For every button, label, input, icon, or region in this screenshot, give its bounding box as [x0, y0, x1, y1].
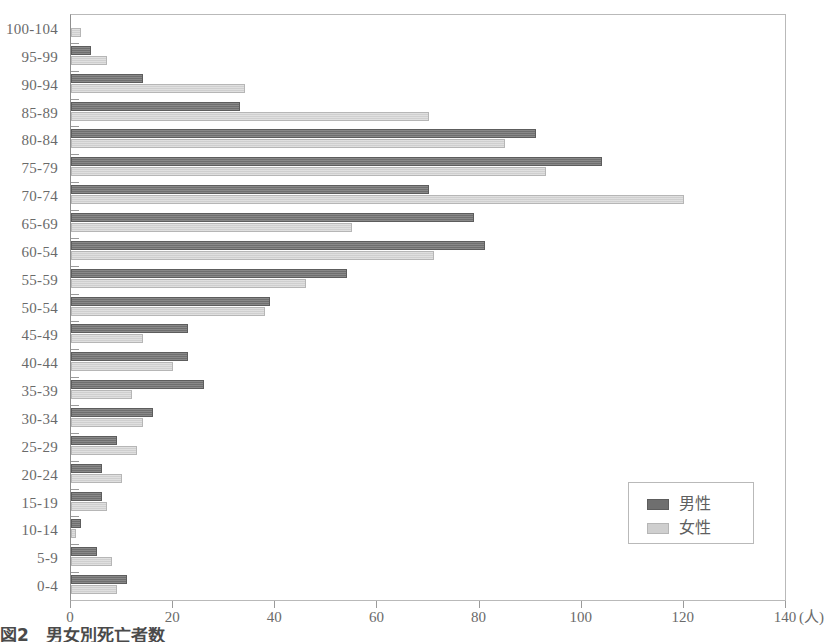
y-axis-label-5-9: 5-9	[37, 551, 58, 566]
bar-row	[71, 349, 786, 377]
bar-row	[71, 154, 786, 182]
y-axis-label-75-79: 75-79	[22, 161, 59, 176]
y-axis-label-55-59: 55-59	[22, 273, 59, 288]
y-axis-label-30-34: 30-34	[22, 412, 59, 427]
female-bar	[71, 251, 434, 260]
y-axis-label-40-44: 40-44	[22, 356, 59, 371]
male-bar	[71, 269, 347, 278]
female-bar	[71, 139, 505, 148]
female-bar	[71, 195, 684, 204]
bar-row	[71, 377, 786, 405]
bar-row	[71, 182, 786, 210]
male-swatch-icon	[647, 499, 669, 510]
x-axis-label-40: 40	[267, 610, 282, 625]
female-bar	[71, 307, 265, 316]
bar-row	[71, 43, 786, 71]
y-axis-label-15-19: 15-19	[22, 496, 59, 511]
y-axis-label-85-89: 85-89	[22, 106, 59, 121]
female-bar	[71, 390, 132, 399]
x-axis-tick	[479, 601, 480, 608]
male-bar	[71, 74, 143, 83]
female-bar	[71, 446, 137, 455]
male-bar	[71, 297, 270, 306]
x-axis-tick	[172, 601, 173, 608]
y-axis-label-80-84: 80-84	[22, 133, 59, 148]
y-axis-label-65-69: 65-69	[22, 217, 59, 232]
male-bar	[71, 102, 240, 111]
female-bar	[71, 56, 107, 65]
y-axis-label-100-104: 100-104	[6, 22, 58, 37]
x-axis-label-80: 80	[471, 610, 486, 625]
male-bar	[71, 519, 81, 528]
bar-row	[71, 321, 786, 349]
female-bar	[71, 557, 112, 566]
bar-row	[71, 238, 786, 266]
male-bar	[71, 213, 474, 222]
female-bar	[71, 502, 107, 511]
y-axis-label-10-14: 10-14	[22, 523, 59, 538]
x-axis-tick	[70, 601, 71, 608]
male-bar	[71, 464, 102, 473]
female-bar	[71, 418, 143, 427]
male-bar	[71, 129, 536, 138]
female-bar	[71, 362, 173, 371]
male-bar	[71, 380, 204, 389]
bar-row	[71, 572, 786, 600]
bar-row	[71, 433, 786, 461]
bar-row	[71, 15, 786, 43]
male-bar	[71, 241, 485, 250]
chart-legend: 男性 女性	[628, 482, 754, 544]
legend-item-female: 女性	[647, 516, 753, 540]
female-bar	[71, 585, 117, 594]
female-bar	[71, 167, 546, 176]
male-bar	[71, 157, 602, 166]
y-axis-label-90-94: 90-94	[22, 78, 59, 93]
male-bar	[71, 408, 153, 417]
y-axis-label-20-24: 20-24	[22, 468, 59, 483]
bar-row	[71, 266, 786, 294]
x-axis-tick	[376, 601, 377, 608]
legend-label-female: 女性	[679, 520, 711, 536]
y-axis-label-70-74: 70-74	[22, 189, 59, 204]
x-axis-tick	[785, 601, 786, 608]
female-bar	[71, 334, 143, 343]
y-axis-label-50-54: 50-54	[22, 301, 59, 316]
bar-row	[71, 210, 786, 238]
x-axis-tick	[274, 601, 275, 608]
female-bar	[71, 529, 76, 538]
male-bar	[71, 492, 102, 501]
figure-caption: 図2 男女別死亡者数	[0, 627, 834, 642]
y-axis-label-60-54: 60-54	[22, 245, 59, 260]
male-bar	[71, 46, 91, 55]
y-axis-label-45-49: 45-49	[22, 328, 59, 343]
bar-row	[71, 126, 786, 154]
bar-row	[71, 544, 786, 572]
y-axis-label-35-39: 35-39	[22, 384, 59, 399]
female-bar	[71, 84, 245, 93]
male-bar	[71, 185, 429, 194]
male-bar	[71, 324, 188, 333]
female-swatch-icon	[647, 523, 669, 534]
y-axis-label-0-4: 0-4	[37, 579, 58, 594]
female-bar	[71, 474, 122, 483]
legend-label-male: 男性	[679, 496, 711, 512]
female-bar	[71, 112, 429, 121]
x-axis-label-0: 0	[66, 610, 74, 625]
male-bar	[71, 352, 188, 361]
bar-row	[71, 71, 786, 99]
x-axis-label-100: 100	[569, 610, 592, 625]
x-axis-tick	[581, 601, 582, 608]
x-axis-unit-label: (人)	[799, 610, 824, 625]
bar-row	[71, 294, 786, 322]
female-bar	[71, 279, 306, 288]
female-bar	[71, 28, 81, 37]
legend-item-male: 男性	[647, 492, 753, 516]
x-axis-label-20: 20	[165, 610, 180, 625]
male-bar	[71, 575, 127, 584]
male-bar	[71, 436, 117, 445]
x-axis-label-120: 120	[672, 610, 695, 625]
bar-row	[71, 99, 786, 127]
bar-row	[71, 405, 786, 433]
x-axis-tick	[683, 601, 684, 608]
y-axis-label-95-99: 95-99	[22, 50, 59, 65]
